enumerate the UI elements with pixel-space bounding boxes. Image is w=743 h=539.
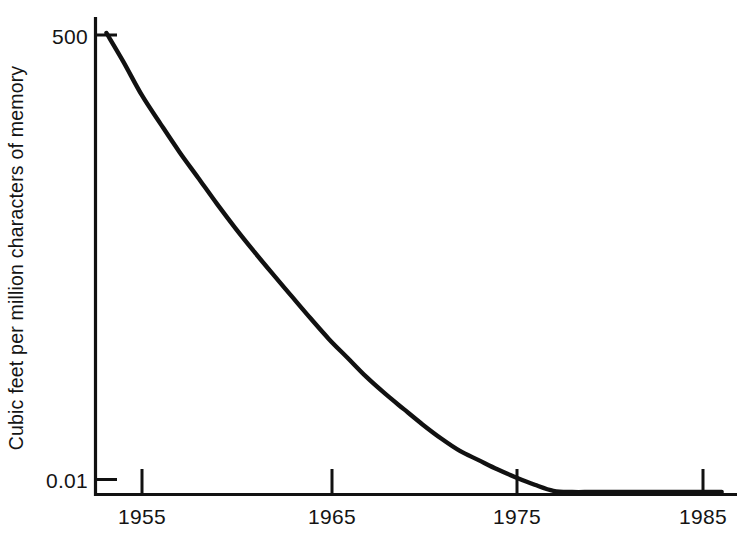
- x-tick-label-1955: 1955: [118, 505, 166, 528]
- x-tick-label-1965: 1965: [308, 505, 356, 528]
- y-tick-label-001: 0.01: [46, 469, 88, 492]
- x-tick-label-1975: 1975: [493, 505, 541, 528]
- x-tick-label-1985: 1985: [679, 505, 727, 528]
- y-axis-title: Cubic feet per million characters of mem…: [5, 66, 27, 451]
- y-tick-label-500: 500: [52, 25, 88, 48]
- chart-canvas: 500 0.01 1955 1965 1975 1985 Cubic feet …: [0, 0, 743, 539]
- chart-background: [0, 0, 743, 539]
